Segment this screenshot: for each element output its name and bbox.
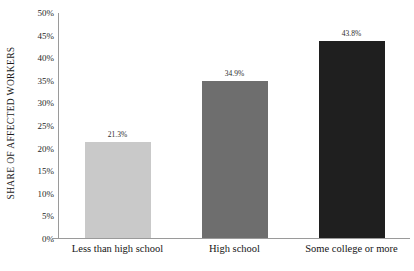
x-axis-category-label: High school xyxy=(176,243,293,254)
bar-group: 43.8% xyxy=(293,13,410,238)
x-axis-category-label: Some college or more xyxy=(293,243,410,254)
y-axis-tick-label: 50% xyxy=(20,8,54,18)
y-axis-tick-label: 20% xyxy=(20,144,54,154)
y-axis-tick-label: 35% xyxy=(20,76,54,86)
y-axis-tick-label: 30% xyxy=(20,98,54,108)
y-axis-tick-label: 45% xyxy=(20,31,54,41)
bar-value-label: 34.9% xyxy=(202,69,268,78)
bar[interactable] xyxy=(202,81,268,238)
bar-value-label: 43.8% xyxy=(319,29,385,38)
y-axis-tick-labels: 0%5%10%15%20%25%30%35%40%45%50% xyxy=(20,13,54,239)
bar[interactable] xyxy=(85,142,151,238)
bar[interactable] xyxy=(319,41,385,238)
y-axis-tick-label: 40% xyxy=(20,53,54,63)
y-axis-tick-label: 25% xyxy=(20,121,54,131)
y-axis-tick-label: 0% xyxy=(20,234,54,244)
y-axis-tick-label: 5% xyxy=(20,211,54,221)
bar-group: 21.3% xyxy=(59,13,176,238)
bar-value-label: 21.3% xyxy=(85,130,151,139)
bar-group: 34.9% xyxy=(176,13,293,238)
plot-area: 21.3%34.9%43.8% xyxy=(59,13,410,238)
y-axis-title-text: SHARE OF AFFECTED WORKERS xyxy=(6,46,16,199)
x-axis-line xyxy=(52,238,410,239)
y-axis-title: SHARE OF AFFECTED WORKERS xyxy=(0,0,22,245)
y-axis-tick-label: 15% xyxy=(20,166,54,176)
x-axis-category-labels: Less than high schoolHigh schoolSome col… xyxy=(59,243,410,263)
y-axis-tick-label: 10% xyxy=(20,189,54,199)
bar-chart: SHARE OF AFFECTED WORKERS 0%5%10%15%20%2… xyxy=(0,0,414,271)
x-axis-category-label: Less than high school xyxy=(59,243,176,254)
